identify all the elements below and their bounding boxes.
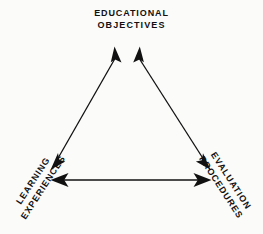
diagram-canvas: EDUCATIONAL OBJECTIVES LEARNING EXPERIEN… [0,0,263,234]
arrowhead-up-right [133,47,144,63]
edge-learning-evaluation [51,173,212,187]
node-label-line: OBJECTIVES [0,19,263,31]
node-label-educational-objectives: EDUCATIONAL OBJECTIVES [0,7,263,31]
node-label-line: EDUCATIONAL [0,7,263,19]
arrowhead-up-left [111,47,122,63]
edge-line-objectives-evaluation [137,55,204,160]
edge-line-objectives-learning [57,55,117,160]
